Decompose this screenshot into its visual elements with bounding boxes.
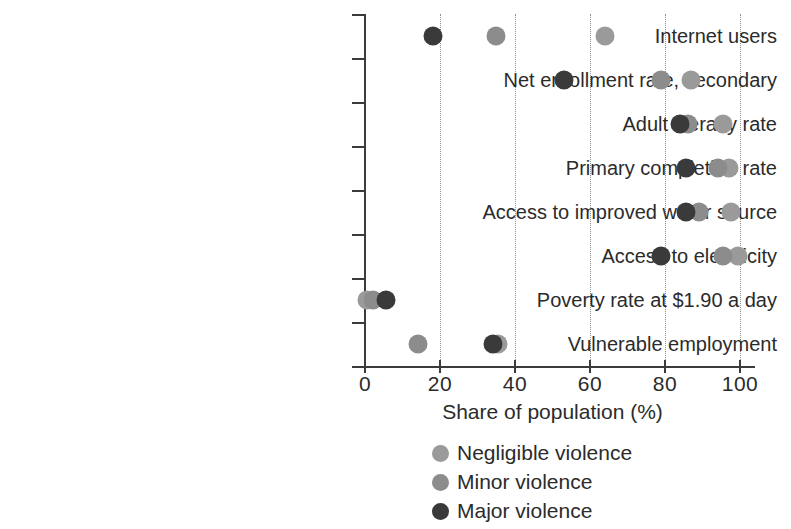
data-point [483,335,502,354]
data-point [708,159,727,178]
gridline [740,14,741,366]
data-point [671,115,690,134]
legend-label: Major violence [457,499,592,523]
data-point [487,27,506,46]
dot-plot-chart: 020406080100 Internet usersNet enrollmen… [0,0,791,529]
data-point [682,71,701,90]
x-axis-tick-label: 100 [722,372,759,396]
data-point [714,247,733,266]
data-point [652,247,671,266]
x-axis-tick-label: 60 [578,372,602,396]
data-point [652,71,671,90]
y-axis-tick [352,322,365,324]
data-point [423,27,442,46]
legend-item: Minor violence [432,469,632,495]
data-point [554,71,573,90]
legend: Negligible violenceMinor violenceMajor v… [432,440,632,524]
y-axis-tick [352,234,365,236]
legend-item: Negligible violence [432,440,632,466]
y-axis-tick [352,14,365,16]
data-point [721,203,740,222]
data-points [365,14,740,366]
data-point [676,203,695,222]
y-axis-tick [352,278,365,280]
x-axis-tick-label: 40 [503,372,527,396]
legend-label: Negligible violence [457,441,632,465]
data-point [714,115,733,134]
legend-label: Minor violence [457,470,592,494]
x-axis-line [365,366,755,368]
y-axis-tick [352,58,365,60]
y-axis-tick [352,102,365,104]
data-point [408,335,427,354]
y-axis-tick [352,146,365,148]
legend-swatch-icon [432,474,449,491]
legend-item: Major violence [432,498,632,524]
x-axis-tick-label: 20 [428,372,452,396]
x-axis-tick-label: 80 [653,372,677,396]
y-axis-tick [352,366,365,368]
data-point [676,159,695,178]
legend-swatch-icon [432,503,449,520]
x-axis-tick-label: 0 [359,372,371,396]
data-point [376,291,395,310]
data-point [596,27,615,46]
legend-swatch-icon [432,445,449,462]
y-axis-tick [352,190,365,192]
x-axis-title: Share of population (%) [365,400,740,424]
